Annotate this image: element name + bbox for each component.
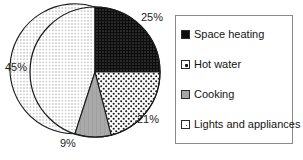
legend-label-lights-and-appliances: Lights and appliances <box>194 119 300 130</box>
legend-item-cooking[interactable]: Cooking <box>181 86 292 102</box>
dense-dotted-swatch-icon <box>181 60 190 69</box>
legend-label-cooking: Cooking <box>194 89 234 100</box>
legend-item-lights-and-appliances[interactable]: Lights and appliances <box>181 116 292 132</box>
pie-label-lights-and-appliances: 45% <box>5 61 27 73</box>
chart-legend: Space heating Hot water Cooking Lights a… <box>175 15 293 144</box>
legend-label-hot-water: Hot water <box>194 59 241 70</box>
legend-list: Space heating Hot water Cooking Lights a… <box>176 16 292 143</box>
pie-label-cooking: 9% <box>60 137 76 149</box>
legend-item-hot-water[interactable]: Hot water <box>181 57 292 73</box>
gray-solid-swatch-icon <box>181 90 190 99</box>
pie-label-space-heating: 25% <box>141 11 163 23</box>
legend-label-space-heating: Space heating <box>194 29 264 40</box>
pie-chart-figure: 25% 21% 9% 45% Space heating Hot water C… <box>0 0 303 160</box>
sparse-dotted-swatch-icon <box>181 120 190 129</box>
pie-chart-svg <box>0 0 175 160</box>
legend-item-space-heating[interactable]: Space heating <box>181 27 292 43</box>
pie-chart-plot-area: 25% 21% 9% 45% <box>0 0 175 160</box>
pie-label-hot-water: 21% <box>137 113 159 125</box>
black-dotted-swatch-icon <box>181 30 190 39</box>
